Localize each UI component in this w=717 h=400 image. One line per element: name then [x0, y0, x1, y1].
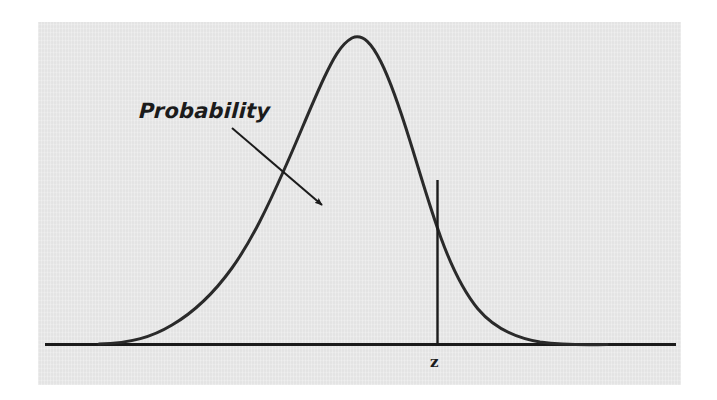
z-axis-marker-label: z [430, 353, 439, 371]
probability-annotation-label: Probability [138, 99, 271, 123]
figure-root: Probability z [0, 0, 717, 400]
normal-distribution-plot [0, 0, 717, 400]
probability-arrow [232, 128, 322, 205]
normal-distribution-curve [99, 37, 607, 345]
